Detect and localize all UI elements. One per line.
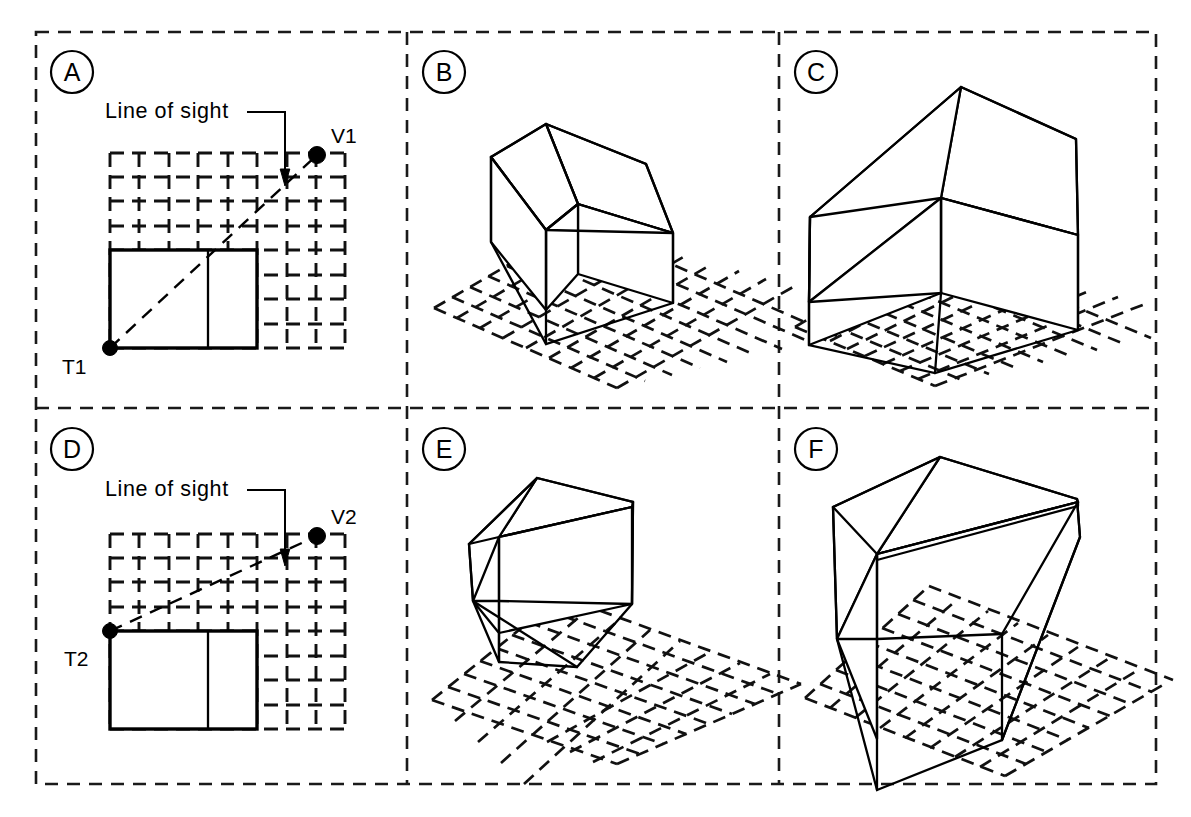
panel-c-label: C (795, 51, 837, 93)
panel-e: E (423, 428, 801, 784)
panel-b-label: B (423, 51, 465, 93)
line-of-sight-annotation: Line of sight (105, 477, 229, 501)
panel-a-label: A (51, 51, 93, 93)
panel-letter: E (436, 435, 453, 463)
viewpoint-label: V1 (331, 124, 357, 147)
line-of-sight-leader-a (247, 112, 290, 186)
building-box-e (469, 478, 633, 667)
target-point-t2 (103, 624, 118, 639)
panel-letter: A (64, 58, 81, 86)
target-point-t1 (103, 341, 118, 356)
panel-letter: F (808, 435, 823, 463)
line-of-sight-annotation: Line of sight (105, 99, 229, 123)
panel-d-label: D (51, 428, 93, 470)
figure-canvas: A (0, 0, 1191, 817)
panel-f: F (795, 428, 1173, 790)
building-box-f (833, 457, 1080, 790)
panel-e-label: E (423, 428, 465, 470)
viewpoint-label: V2 (331, 505, 357, 528)
panel-a: A (51, 51, 357, 378)
target-label: T1 (62, 355, 87, 378)
panel-c: C (795, 51, 1151, 386)
panel-b: B (423, 51, 837, 388)
target-label: T2 (64, 647, 89, 670)
building-box-b (491, 124, 673, 344)
panel-letter: C (807, 58, 825, 86)
viewpoint-v1 (309, 147, 326, 164)
diagram-svg: A (0, 0, 1191, 817)
line-of-sight-leader-d (247, 490, 290, 566)
panel-letter: D (63, 435, 81, 463)
panel-f-label: F (795, 428, 837, 470)
viewpoint-v2 (309, 528, 326, 545)
panel-letter: B (436, 58, 453, 86)
target-rectangle-a (110, 250, 257, 348)
target-rectangle-d (110, 631, 257, 729)
panel-d: D T2 V2 (51, 428, 357, 729)
